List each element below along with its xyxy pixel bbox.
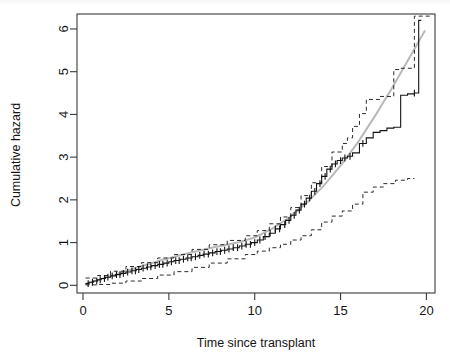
upper-confidence-band <box>86 16 430 278</box>
x-axis-ticks <box>83 293 426 300</box>
x-tick-label-10: 10 <box>247 303 261 318</box>
x-axis-title: Time since transplant <box>197 336 316 350</box>
y-tick-label-0: 0 <box>57 282 72 289</box>
y-tick-label-4: 4 <box>57 111 72 118</box>
censoring-tick-marks <box>88 90 414 287</box>
y-tick-label-5: 5 <box>57 68 72 75</box>
x-axis-tick-labels: 05101520 <box>79 303 433 318</box>
plot-frame-box <box>77 14 435 293</box>
y-tick-label-2: 2 <box>57 196 72 203</box>
step-curve-path <box>86 20 422 283</box>
y-axis-tick-labels: 0123456 <box>57 25 72 289</box>
data-series-layer <box>86 16 430 287</box>
figure-panel: 0123456 05101520 Time since transplant C… <box>0 0 450 361</box>
smooth-reference-curve <box>86 31 425 284</box>
x-tick-label-15: 15 <box>333 303 347 318</box>
cumulative-hazard-chart: 0123456 05101520 Time since transplant C… <box>0 0 450 361</box>
upper-band-path <box>86 16 430 278</box>
y-tick-label-1: 1 <box>57 239 72 246</box>
y-tick-label-6: 6 <box>57 25 72 32</box>
x-tick-label-0: 0 <box>79 303 86 318</box>
y-tick-label-3: 3 <box>57 154 72 161</box>
cumulative-hazard-step-curve <box>86 20 422 283</box>
y-axis-title: Cumulative hazard <box>9 103 23 207</box>
x-tick-label-5: 5 <box>165 303 172 318</box>
x-tick-label-20: 20 <box>419 303 433 318</box>
reference-curve-path <box>86 31 425 284</box>
